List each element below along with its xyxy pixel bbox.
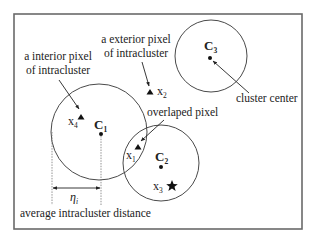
cluster-3-label: C3 [204,38,217,55]
pixel-x2-triangle-icon [147,89,154,95]
interior-pixel-label-line2: of intracluster [26,64,90,76]
cluster-center-label: cluster center [236,92,298,104]
cluster-1-center-dot [99,132,103,136]
cluster-2-center-dot [159,165,163,169]
cluster-3-center-dot [208,56,212,60]
exterior-pixel-arrow [142,62,149,86]
exterior-pixel-label-line2: of intracluster [104,47,168,59]
distance-symbol: ηi [70,190,78,206]
pixel-x3-label: x3 [153,179,163,195]
pixel-x1-label: x1 [126,148,136,164]
exterior-pixel-label: a exterior pixel [101,33,171,46]
cluster-center-arrow [213,61,249,93]
interior-pixel-label: a interior pixel [24,50,92,63]
overlapped-pixel-label: overlaped pixel [147,106,218,119]
pixel-x1-triangle-icon [135,144,142,150]
interior-pixel-arrow [59,80,79,109]
cluster-1-label: C1 [94,117,107,134]
pixel-x2-label: x2 [157,84,167,100]
pixel-x4-triangle-icon [78,114,85,120]
average-distance-label: average intracluster distance [20,207,151,220]
overlapped-pixel-arrow [141,120,164,141]
pixel-x4-label: x4 [68,114,78,130]
cluster-2-label: C2 [155,149,168,166]
cluster-diagram: C1 C2 C3 x4 x2 x1 x3 a interior pixel of… [0,0,317,242]
cluster-1-boundary [51,84,147,180]
pixel-x3-star-icon [166,180,178,191]
